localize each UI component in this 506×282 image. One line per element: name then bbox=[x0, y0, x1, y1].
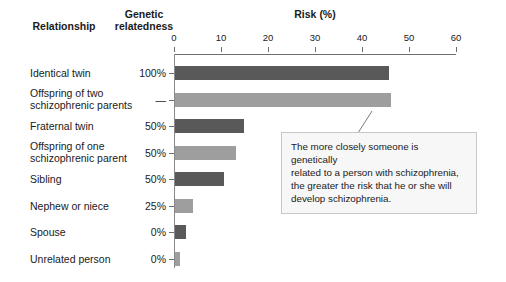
x-axis-tick-mark bbox=[362, 47, 363, 52]
chart-row: Offspring of twoschizophrenic parents— bbox=[0, 93, 506, 121]
column-header-genetic-relatedness-line1: Genetic bbox=[108, 8, 180, 20]
callout-leader-line bbox=[356, 110, 374, 134]
x-axis-tick-label: 10 bbox=[208, 32, 234, 43]
x-axis-tick-label: 50 bbox=[396, 32, 422, 43]
x-axis-tick-label: 40 bbox=[349, 32, 375, 43]
callout-line-1: The more closely someone is genetically bbox=[291, 140, 467, 166]
row-genetic-relatedness-value: 50% bbox=[118, 147, 166, 160]
x-axis-tick-mark bbox=[456, 47, 457, 52]
x-axis-tick-mark bbox=[268, 47, 269, 52]
y-axis-tick-mark bbox=[169, 73, 174, 74]
axis-title-risk: Risk (%) bbox=[255, 8, 375, 20]
callout-annotation: The more closely someone is genetically … bbox=[281, 132, 477, 214]
bar bbox=[175, 199, 193, 213]
bar bbox=[175, 66, 389, 80]
x-axis-tick-label: 30 bbox=[302, 32, 328, 43]
column-header-relationship: Relationship bbox=[22, 20, 106, 32]
chart-figure: Relationship Genetic relatedness Risk (%… bbox=[0, 0, 506, 282]
chart-row: Spouse0% bbox=[0, 225, 506, 253]
y-axis-tick-mark bbox=[169, 126, 174, 127]
row-genetic-relatedness-value: 25% bbox=[118, 200, 166, 213]
callout-line-2: related to a person with schizophrenia, bbox=[291, 166, 467, 179]
x-axis-tick-label: 60 bbox=[443, 32, 469, 43]
x-axis-tick-mark bbox=[315, 47, 316, 52]
row-genetic-relatedness-value: 0% bbox=[118, 253, 166, 266]
bar bbox=[175, 146, 236, 160]
x-axis: 0102030405060 bbox=[174, 32, 459, 52]
row-genetic-relatedness-value: 50% bbox=[118, 173, 166, 186]
x-axis-tick-mark bbox=[174, 47, 175, 52]
y-axis-tick-mark bbox=[169, 153, 174, 154]
bar bbox=[175, 252, 180, 266]
row-genetic-relatedness-value: 0% bbox=[118, 226, 166, 239]
row-genetic-relatedness-value: 50% bbox=[118, 120, 166, 133]
x-axis-tick-mark bbox=[221, 47, 222, 52]
callout-line-4: develop schizophrenia. bbox=[291, 192, 467, 205]
x-axis-tick-label: 0 bbox=[161, 32, 187, 43]
column-header-genetic-relatedness: Genetic relatedness bbox=[108, 8, 180, 32]
callout-line-3: the greater the risk that he or she will bbox=[291, 179, 467, 192]
y-axis-tick-mark bbox=[169, 100, 174, 101]
x-axis-tick-mark bbox=[409, 47, 410, 52]
bar bbox=[175, 172, 224, 186]
row-genetic-relatedness-value: 100% bbox=[118, 67, 166, 80]
column-header-genetic-relatedness-line2: relatedness bbox=[108, 20, 180, 32]
y-axis-tick-mark bbox=[169, 179, 174, 180]
x-axis-tick-label: 20 bbox=[255, 32, 281, 43]
y-axis-tick-mark bbox=[169, 206, 174, 207]
row-genetic-relatedness-value: — bbox=[118, 94, 166, 107]
bar bbox=[175, 93, 391, 107]
y-axis-tick-mark bbox=[169, 232, 174, 233]
x-axis-line bbox=[174, 54, 456, 55]
chart-row: Unrelated person0% bbox=[0, 252, 506, 280]
y-axis-tick-mark bbox=[169, 259, 174, 260]
bar bbox=[175, 119, 244, 133]
bar bbox=[175, 225, 186, 239]
